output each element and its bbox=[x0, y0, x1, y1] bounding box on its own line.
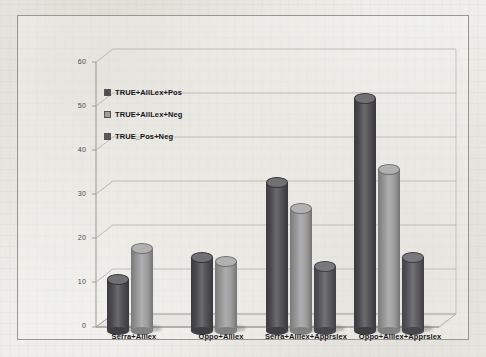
legend-label-2: TRUE_Pos+Neg bbox=[115, 132, 173, 141]
legend-swatch-1 bbox=[104, 111, 111, 118]
legend-label-1: TRUE+AllLex+Neg bbox=[115, 110, 182, 119]
bar[interactable] bbox=[290, 203, 312, 331]
bar[interactable] bbox=[191, 252, 213, 331]
bar[interactable] bbox=[107, 274, 129, 331]
bar-body bbox=[290, 208, 312, 331]
bar-body bbox=[378, 169, 400, 331]
bar[interactable] bbox=[266, 177, 288, 331]
bar[interactable] bbox=[354, 93, 376, 331]
bars-layer bbox=[18, 16, 470, 341]
bar-top-ellipse bbox=[131, 243, 153, 254]
legend-item-2: TRUE_Pos+Neg bbox=[104, 132, 173, 141]
chart-frame: 60 50 40 30 20 10 0 TRUE+AllLex+Pos TRUE… bbox=[17, 15, 469, 340]
bar-top-ellipse bbox=[107, 274, 129, 285]
bar-body bbox=[107, 279, 129, 331]
bar[interactable] bbox=[215, 256, 237, 331]
bar-top-ellipse bbox=[354, 93, 376, 104]
bar-body bbox=[314, 266, 336, 331]
bar[interactable] bbox=[131, 243, 153, 331]
bar-top-ellipse bbox=[191, 252, 213, 263]
bar[interactable] bbox=[402, 252, 424, 331]
legend-swatch-2 bbox=[104, 133, 111, 140]
bar-top-ellipse bbox=[402, 252, 424, 263]
category-label-3: Oppo+Alllex+Apprslex bbox=[330, 332, 470, 341]
bar-top-ellipse bbox=[314, 261, 336, 272]
bar-body bbox=[215, 261, 237, 331]
legend-swatch-0 bbox=[104, 89, 111, 96]
bar-body bbox=[131, 248, 153, 331]
bar-top-ellipse bbox=[378, 164, 400, 175]
bar-body bbox=[191, 257, 213, 331]
bar-top-ellipse bbox=[266, 177, 288, 188]
bar-body bbox=[266, 182, 288, 331]
bar-body bbox=[354, 98, 376, 331]
legend-item-0: TRUE+AllLex+Pos bbox=[104, 88, 182, 97]
legend-item-1: TRUE+AllLex+Neg bbox=[104, 110, 182, 119]
bar-body bbox=[402, 257, 424, 331]
bar[interactable] bbox=[378, 164, 400, 331]
bar[interactable] bbox=[314, 261, 336, 331]
legend-label-0: TRUE+AllLex+Pos bbox=[115, 88, 182, 97]
